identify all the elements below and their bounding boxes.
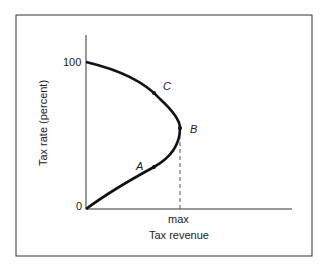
y-axis-label: Tax rate (percent) [37,68,49,178]
point-a [152,165,156,169]
label-c: C [163,80,171,92]
x-tick-max: max [168,213,189,225]
point-b [178,126,182,130]
frame [16,15,312,256]
laffer-chart [0,0,328,268]
point-c [152,91,156,95]
x-axis-label: Tax revenue [149,229,209,241]
y-tick-100: 100 [63,56,81,68]
y-tick-0: 0 [76,200,82,212]
label-a: A [136,160,143,172]
label-b: B [190,123,197,135]
